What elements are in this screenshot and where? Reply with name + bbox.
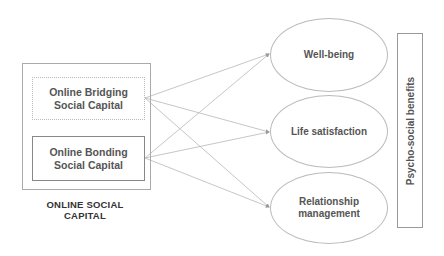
psycho-social-benefits-panel: Psycho-social benefits bbox=[397, 33, 423, 228]
arrow-bridging-life bbox=[145, 98, 269, 132]
group-caption: ONLINE SOCIAL CAPITAL bbox=[30, 199, 140, 221]
bonding-capital-box: Online Bonding Social Capital bbox=[32, 136, 145, 181]
bonding-capital-label: Online Bonding Social Capital bbox=[44, 146, 134, 172]
outcome-label: Relationship management bbox=[289, 196, 369, 220]
bridging-capital-label: Online Bridging Social Capital bbox=[44, 86, 134, 112]
outcome-wellbeing: Well-being bbox=[270, 18, 388, 92]
outcome-life-satisfaction: Life satisfaction bbox=[270, 95, 388, 168]
arrow-bonding-wellbeing bbox=[145, 54, 269, 158]
arrow-bridging-wellbeing bbox=[145, 54, 269, 98]
arrow-bridging-relationship bbox=[145, 98, 269, 207]
panel-label: Psycho-social benefits bbox=[405, 76, 416, 184]
outcome-relationship-management: Relationship management bbox=[270, 172, 388, 244]
arrow-bonding-relationship bbox=[145, 158, 269, 207]
arrow-bonding-life bbox=[145, 132, 269, 158]
bridging-capital-box: Online Bridging Social Capital bbox=[32, 77, 145, 120]
outcome-label: Life satisfaction bbox=[291, 126, 367, 138]
outcome-label: Well-being bbox=[304, 49, 354, 61]
